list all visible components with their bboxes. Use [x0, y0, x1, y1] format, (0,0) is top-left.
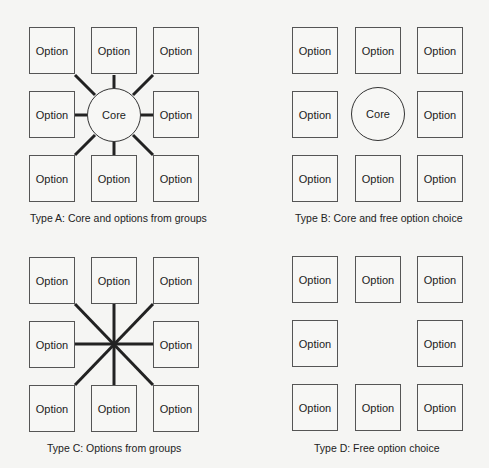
caption-type-d: Type D: Free option choice	[314, 442, 439, 454]
option-box: Option	[29, 385, 75, 432]
option-box: Option	[417, 320, 463, 367]
option-box: Option	[355, 384, 401, 431]
option-box: Option	[292, 320, 338, 367]
option-box: Option	[292, 256, 338, 303]
option-box: Option	[29, 257, 75, 304]
option-box: Option	[355, 256, 401, 303]
option-box: Option	[153, 385, 199, 432]
option-box: Option	[153, 321, 199, 368]
option-box: Option	[153, 257, 199, 304]
diagram-type-d: Option Option Option Option Option Optio…	[0, 0, 244, 234]
option-box: Option	[292, 384, 338, 431]
option-box: Option	[91, 257, 137, 304]
option-box: Option	[417, 256, 463, 303]
option-box: Option	[91, 385, 137, 432]
option-box: Option	[29, 321, 75, 368]
option-box: Option	[417, 384, 463, 431]
caption-type-c: Type C: Options from groups	[47, 442, 181, 454]
